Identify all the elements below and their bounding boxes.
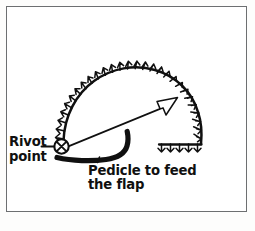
flap-diagram: Rivot point Pedicle to feed the flap bbox=[0, 0, 255, 231]
hatch-tick bbox=[181, 89, 188, 94]
pedicle-label-line1: Pedicle to feed bbox=[88, 163, 196, 178]
hatch-tick bbox=[69, 95, 75, 101]
hatch-tick bbox=[185, 97, 193, 102]
pivot-point-symbol bbox=[54, 139, 68, 153]
pedicle-label-line2: the flap bbox=[88, 177, 144, 192]
hatch-tick bbox=[188, 105, 196, 110]
pivot-label-line1: Rivot bbox=[9, 134, 47, 149]
pivot-label-line2: point bbox=[9, 149, 47, 164]
hatch-tick bbox=[75, 89, 81, 95]
pedicle-label: Pedicle to feed the flap bbox=[88, 163, 196, 192]
hatch-tick bbox=[65, 102, 72, 109]
direction-arrow bbox=[67, 98, 178, 148]
figure-root: Rivot point Pedicle to feed the flap bbox=[0, 0, 255, 231]
hatch-tick bbox=[191, 112, 199, 117]
flap-margin-arc bbox=[64, 67, 202, 144]
hatch-tick bbox=[81, 82, 86, 88]
pivot-point-label: Rivot point bbox=[9, 134, 47, 164]
